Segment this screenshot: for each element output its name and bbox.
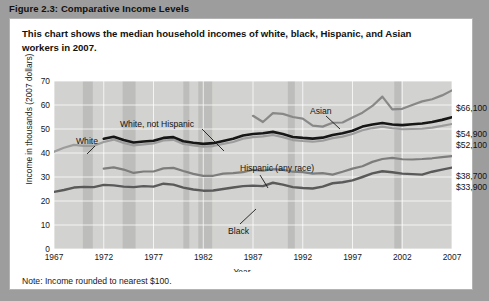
x-tick-label-1977: 1977 — [134, 252, 174, 262]
asian-end-value: $66,100 — [456, 103, 487, 113]
white-end-value: $52,100 — [456, 140, 487, 150]
white-not-hispanic-end-value: $54,900 — [456, 129, 487, 139]
x-tick-label-2007: 2007 — [432, 252, 472, 262]
x-tick-label-1982: 1982 — [183, 252, 223, 262]
x-tick-label-1987: 1987 — [233, 252, 273, 262]
y-tick-label-50: 50 — [28, 124, 50, 134]
y-tick-label-30: 30 — [28, 172, 50, 182]
figure-title-bar: Figure 2.3: Comparative Income Levels — [0, 0, 468, 17]
black-end-value: $33,900 — [456, 182, 487, 192]
x-tick-label-1992: 1992 — [283, 252, 323, 262]
y-tick-label-10: 10 — [28, 220, 50, 230]
figure-container: Figure 2.3: Comparative Income Levels Th… — [0, 0, 489, 301]
hispanic-end-value: $38,700 — [456, 171, 487, 181]
x-tick-label-1997: 1997 — [333, 252, 373, 262]
figure-title: Figure 2.3: Comparative Income Levels — [9, 3, 189, 14]
white-not-hispanic-series-label: White, not Hispanic — [120, 119, 194, 129]
asian-series-label: Asian — [310, 106, 332, 116]
x-tick-label-1972: 1972 — [84, 252, 124, 262]
x-tick-label-1967: 1967 — [34, 252, 74, 262]
y-tick-label-40: 40 — [28, 148, 50, 158]
x-tick-label-2002: 2002 — [382, 252, 422, 262]
hispanic-series-label: Hispanic (any race) — [240, 163, 314, 173]
black-series-label: Black — [228, 226, 249, 236]
figure-subtitle: This chart shows the median household in… — [22, 27, 442, 54]
y-tick-label-70: 70 — [28, 76, 50, 86]
figure-body-panel: This chart shows the median household in… — [9, 18, 473, 290]
figure-note-bar: Note: Income rounded to nearest $100. — [9, 272, 473, 290]
white-series-label: White — [76, 136, 98, 146]
y-tick-label-60: 60 — [28, 100, 50, 110]
figure-note: Note: Income rounded to nearest $100. — [22, 276, 172, 286]
y-tick-label-20: 20 — [28, 196, 50, 206]
